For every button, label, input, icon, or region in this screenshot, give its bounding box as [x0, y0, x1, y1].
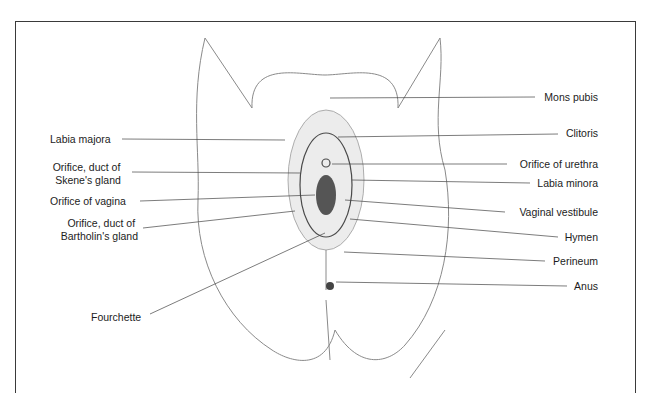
leader-skenes-gland — [132, 172, 300, 173]
leader-orifice-vagina — [140, 195, 315, 201]
label-orifice-vagina: Orifice of vagina — [50, 195, 126, 207]
leader-labia-majora — [122, 139, 285, 140]
anatomy-diagram: Labia majora Orifice, duct of Skene's gl… — [0, 0, 649, 393]
label-mons-pubis: Mons pubis — [544, 91, 598, 103]
label-hymen: Hymen — [565, 231, 598, 243]
vaginal-orifice-mark — [316, 175, 336, 215]
label-fourchette: Fourchette — [91, 311, 141, 323]
label-skenes-gland: Orifice, duct of Skene's gland — [53, 161, 124, 186]
anus-mark — [326, 282, 334, 290]
label-vaginal-vestibule: Vaginal vestibule — [519, 206, 598, 218]
leader-labia-minora — [352, 180, 530, 183]
label-clitoris: Clitoris — [566, 127, 598, 139]
leader-vaginal-vestibule — [345, 200, 505, 212]
leader-clitoris — [338, 134, 558, 137]
label-bartholins-gland: Orifice, duct of Bartholin's gland — [61, 217, 138, 242]
label-orifice-urethra: Orifice of urethra — [520, 158, 598, 170]
labels-right: Mons pubis Clitoris Orifice of urethra L… — [519, 91, 598, 292]
leader-anus — [336, 282, 567, 286]
label-anus: Anus — [574, 280, 598, 292]
label-labia-minora: Labia minora — [537, 177, 598, 189]
leader-fourchette — [150, 233, 325, 314]
label-labia-majora: Labia majora — [50, 133, 111, 145]
label-perineum: Perineum — [553, 255, 598, 267]
labels-left: Labia majora Orifice, duct of Skene's gl… — [50, 133, 141, 323]
signature-mark — [410, 330, 445, 378]
leader-hymen — [350, 219, 558, 237]
leader-bartholins-gland — [143, 211, 295, 228]
cleft-line — [326, 250, 330, 360]
leader-mons-pubis — [330, 97, 535, 98]
schematic-outline — [197, 38, 449, 378]
